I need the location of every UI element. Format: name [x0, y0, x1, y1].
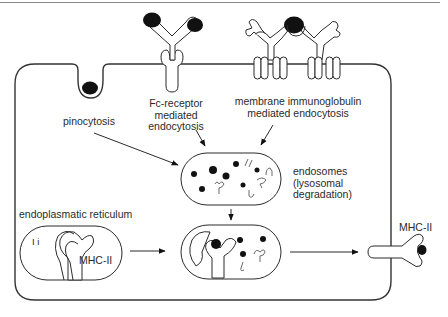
label-mhc-ii-surface: MHC-II — [399, 222, 432, 234]
label-membrane-ig-line2: mediated endocytosis — [228, 108, 368, 120]
endoplasmic-reticulum — [20, 226, 122, 280]
label-invariant-chain: I i — [32, 236, 39, 248]
label-pinocytosis: pinocytosis — [63, 116, 115, 128]
label-membrane-ig-line1: membrane immunoglobulin — [228, 96, 368, 108]
label-fc-receptor: Fc-receptor mediated endocytosis — [146, 98, 206, 133]
mhc-loading-compartment — [181, 225, 281, 279]
label-fc-receptor-line3: endocytosis — [146, 121, 206, 133]
label-mhc-ii-er: MHC-II — [79, 255, 112, 267]
antigen-processing-diagram — [0, 0, 448, 317]
label-fc-receptor-line1: Fc-receptor — [146, 98, 206, 110]
label-endosomes-line3: degradation) — [293, 189, 352, 201]
label-membrane-immunoglobulin: membrane immunoglobulin mediated endocyt… — [228, 96, 368, 119]
endosome — [181, 153, 281, 205]
pinocytosis-antigen — [82, 82, 98, 95]
label-endoplasmic-reticulum: endoplasmatic reticulum — [19, 209, 132, 221]
label-endosomes: endosomes (lysosomal degradation) — [293, 166, 352, 201]
label-endosomes-line1: endosomes — [293, 166, 352, 178]
